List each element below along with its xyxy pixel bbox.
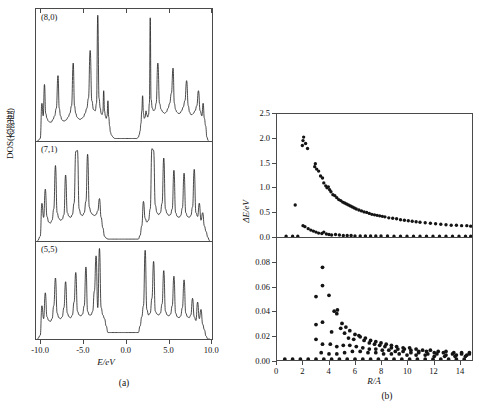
- panel-a-xtick-mark: [40, 340, 41, 344]
- panel-b-xtick-mark: [276, 361, 277, 365]
- panel-b-top-y-tick-label: 1.0: [259, 183, 270, 192]
- panel-b-top-y-tick-mark: [272, 187, 276, 188]
- figure-panel-a: DOS(态密度) (8,0) (7,1) (5,5) -10.0-5.00.05…: [0, 0, 239, 404]
- panel-b-xtick-mark: [302, 361, 303, 365]
- panel-b-bottom-y-tick-label: 0.00: [255, 357, 270, 366]
- panel-b-xtick-mark: [407, 361, 408, 365]
- panel-b-xtick-mark: [381, 361, 382, 365]
- scientific-figure: DOS(态密度) (8,0) (7,1) (5,5) -10.0-5.00.05…: [0, 0, 478, 404]
- panel-a-top-tick-mark: [169, 9, 170, 13]
- dos-subpanel-tag-5-5: (5,5): [41, 244, 57, 254]
- panel-b-bottom-y-tick-label: 0.02: [255, 332, 270, 341]
- figure-panel-b: ΔE/eV 0.00.51.01.52.02.5 0.000.020.040.0…: [239, 0, 478, 404]
- panel-b-top-y-tick-label: 2.5: [259, 109, 270, 118]
- panel-b-top-y-tick-label: 1.5: [259, 158, 270, 167]
- scatter-series-baseline: [283, 357, 466, 360]
- scatter-series-branch-1: [314, 265, 471, 354]
- panel-a-xtick-label: 10.0: [204, 346, 219, 355]
- dos-subpanel-tag-7-1: (7,1): [41, 144, 57, 154]
- panel-b-caption: (b): [381, 391, 392, 401]
- panel-a-xtick-mark: [211, 340, 212, 344]
- panel-a-top-tick-mark: [211, 9, 212, 13]
- dos-curve-7-1: [36, 142, 212, 241]
- scatter-subpanel-bottom: [276, 237, 473, 361]
- panel-a-xtick-mark: [83, 340, 84, 344]
- panel-a-xtick-label: 5.0: [163, 346, 174, 355]
- panel-a-ylabel: DOS(态密度): [4, 108, 18, 159]
- scatter-series-upper-branch: [294, 135, 472, 227]
- panel-b-bottom-y-tick-label: 0.06: [255, 282, 270, 291]
- panel-b-top-y-tick-mark: [272, 113, 276, 114]
- panel-b-xtick-label: 2: [300, 367, 304, 376]
- scatter-series-branch-2: [314, 312, 471, 356]
- panel-b-ylabel: ΔE/eV: [241, 200, 253, 223]
- dos-subpanel-8-0: (8,0): [35, 8, 213, 141]
- dos-subpanel-7-1: (7,1): [35, 141, 213, 241]
- panel-b-bottom-y-tick-mark: [272, 336, 276, 337]
- panel-a-xtick-label: 0.0: [120, 346, 131, 355]
- scatter-subpanel-top: [276, 113, 473, 237]
- panel-b-xtick-label: 12: [429, 367, 438, 376]
- panel-b-xtick-label: 6: [353, 367, 357, 376]
- panel-b-xtick-label: 14: [456, 367, 465, 376]
- dos-curve-5-5: [36, 242, 212, 339]
- panel-b-xtick-mark: [329, 361, 330, 365]
- panel-b-bottom-y-tick-label: 0.08: [255, 258, 270, 267]
- panel-b-bottom-y-tick-mark: [272, 287, 276, 288]
- scatter-points-top: [277, 114, 472, 237]
- panel-b-bottom-y-tick-mark: [272, 262, 276, 263]
- panel-b-xlabel: R/Å: [367, 376, 381, 386]
- panel-b-xtick-label: 4: [326, 367, 330, 376]
- panel-a-xtick-mark: [126, 340, 127, 344]
- panel-b-top-y-tick-label: 0.5: [259, 208, 270, 217]
- panel-a-xtick-label: -10.0: [31, 346, 49, 355]
- dos-subpanel-5-5: (5,5): [35, 241, 213, 340]
- panel-a-xtick-mark: [169, 340, 170, 344]
- panel-a-caption: (a): [119, 378, 130, 388]
- panel-b-xtick-label: 8: [379, 367, 383, 376]
- panel-b-bottom-y-tick-label: 0.04: [255, 307, 270, 316]
- panel-a-xtick-label: -5.0: [76, 346, 89, 355]
- panel-b-top-y-tick-mark: [272, 163, 276, 164]
- panel-b-xtick-mark: [434, 361, 435, 365]
- panel-a-xlabel: E/eV: [97, 357, 115, 367]
- panel-a-top-tick-mark: [83, 9, 84, 13]
- scatter-points-bottom: [277, 238, 472, 360]
- panel-b-xtick-mark: [460, 361, 461, 365]
- dos-subpanel-tag-8-0: (8,0): [41, 12, 57, 22]
- panel-b-top-y-tick-mark: [272, 212, 276, 213]
- panel-b-top-y-tick-mark: [272, 138, 276, 139]
- panel-b-top-y-tick-mark: [272, 237, 276, 238]
- panel-b-xtick-label: 0: [274, 367, 278, 376]
- panel-b-top-y-tick-label: 0.0: [259, 233, 270, 242]
- panel-b-xtick-label: 10: [403, 367, 412, 376]
- panel-a-top-tick-mark: [126, 9, 127, 13]
- dos-curve-8-0: [36, 9, 212, 141]
- panel-b-xtick-mark: [355, 361, 356, 365]
- panel-b-bottom-y-tick-mark: [272, 311, 276, 312]
- scatter-series-lower-branch: [284, 224, 472, 237]
- panel-b-top-y-tick-label: 2.0: [259, 134, 270, 143]
